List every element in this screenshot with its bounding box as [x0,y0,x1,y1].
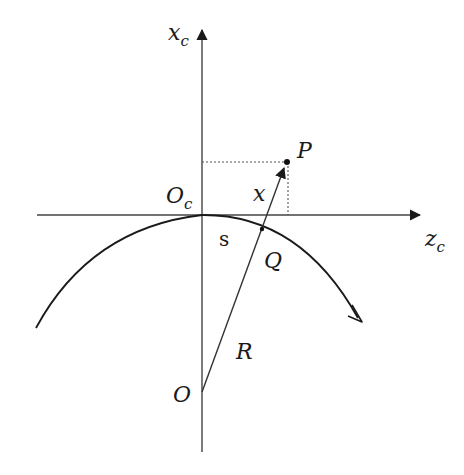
radius-R-label: R [235,339,253,364]
curvilinear-coordinate-diagram: xc zc Oc P Q O x s R [0,0,464,475]
point-P-label: P [296,138,313,163]
arc-s-label: s [219,227,229,251]
point-Q [260,227,264,231]
point-P [284,159,290,165]
point-Q-label: Q [264,248,282,273]
origin-c-label: Oc [166,183,193,213]
xc-axis-label: xc [168,20,189,50]
reference-curve [36,215,358,328]
segment-x-label: x [253,181,266,206]
origin-label: O [173,382,191,407]
zc-axis-label: zc [424,226,446,256]
